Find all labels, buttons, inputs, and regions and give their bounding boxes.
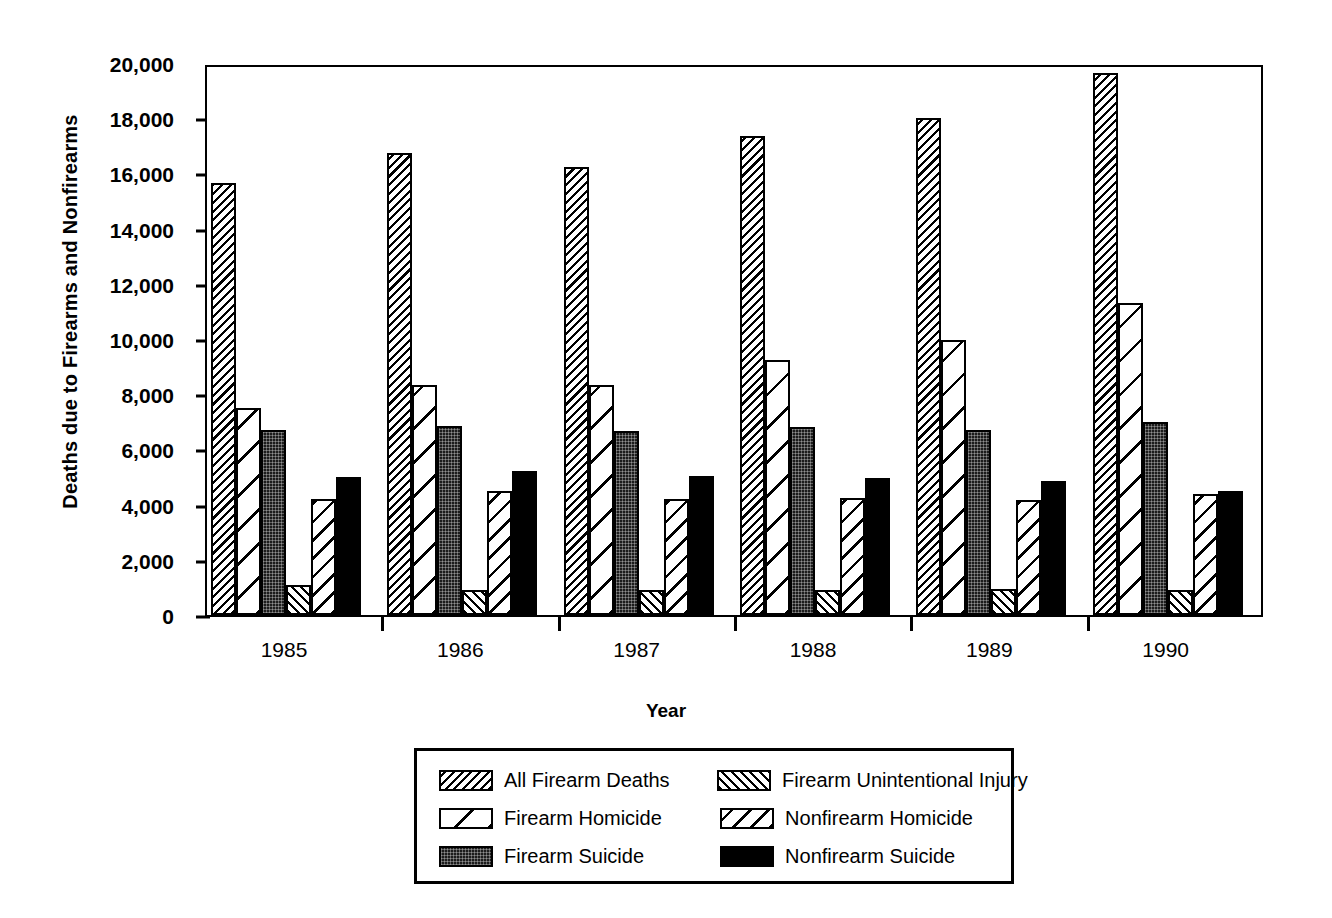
bar <box>487 491 512 615</box>
legend-label: Firearm Unintentional Injury <box>782 769 1028 792</box>
y-axis-tick-label: 6,000 <box>121 439 174 463</box>
bar <box>664 499 689 615</box>
y-axis-tick-label: 12,000 <box>110 274 174 298</box>
legend-label: Firearm Homicide <box>504 807 662 830</box>
bar <box>1193 494 1218 615</box>
plot-area <box>205 65 1263 617</box>
bar <box>1218 491 1243 615</box>
x-axis-tick-mark <box>558 617 561 631</box>
y-axis-tick-label: 14,000 <box>110 219 174 243</box>
bar-group <box>383 67 559 615</box>
legend-label: All Firearm Deaths <box>504 769 670 792</box>
bar-group <box>560 67 736 615</box>
bar <box>614 431 639 615</box>
y-axis-tick-label: 20,000 <box>110 53 174 77</box>
legend-item-firearm-homicide: Firearm Homicide <box>417 807 714 830</box>
bar <box>1093 73 1118 615</box>
x-axis-title: Year <box>0 700 1332 722</box>
bar <box>286 585 311 615</box>
bar <box>966 430 991 615</box>
legend-swatch-firearm-homicide <box>439 808 493 829</box>
legend-row: All Firearm Deaths Firearm Unintentional… <box>417 761 1011 799</box>
x-axis-tick-label: 1989 <box>966 638 1013 662</box>
y-axis-tick-label: 0 <box>162 605 174 629</box>
legend-swatch-nonfirearm-suicide <box>720 846 774 867</box>
legend-item-firearm-unintentional-injury: Firearm Unintentional Injury <box>711 769 1011 792</box>
bar <box>1041 481 1066 615</box>
y-axis-tick-label: 16,000 <box>110 163 174 187</box>
x-axis-ticks <box>205 617 1263 633</box>
bar <box>740 136 765 615</box>
y-axis-tick-label: 2,000 <box>121 550 174 574</box>
bar <box>336 477 361 615</box>
bar-group <box>207 67 383 615</box>
legend-label: Nonfirearm Homicide <box>785 807 973 830</box>
bar-group <box>912 67 1088 615</box>
legend-item-all-firearm-deaths: All Firearm Deaths <box>417 769 711 792</box>
x-axis-tick-label: 1988 <box>790 638 837 662</box>
x-axis-tick-label: 1986 <box>437 638 484 662</box>
legend-item-nonfirearm-suicide: Nonfirearm Suicide <box>714 845 1011 868</box>
bar <box>512 471 537 615</box>
bar <box>236 408 261 615</box>
x-axis-tick-label: 1985 <box>261 638 308 662</box>
x-axis-tick-label: 1987 <box>613 638 660 662</box>
x-axis-tick-mark <box>381 617 384 631</box>
bar <box>941 340 966 615</box>
x-axis-tick-label: 1990 <box>1142 638 1189 662</box>
legend-swatch-firearm-suicide <box>439 846 493 867</box>
bar <box>689 476 714 615</box>
bar <box>589 385 614 615</box>
x-axis-tick-mark <box>910 617 913 631</box>
bar <box>815 590 840 615</box>
bar <box>211 183 236 615</box>
y-axis-tick-labels: 20,00018,00016,00014,00012,00010,0008,00… <box>0 0 196 640</box>
legend-row: Firearm Homicide Nonfirearm Homicide <box>417 799 1011 837</box>
bar <box>991 589 1016 615</box>
bar <box>865 478 890 615</box>
y-axis-tick-label: 10,000 <box>110 329 174 353</box>
bar <box>1168 590 1193 615</box>
bar <box>261 430 286 615</box>
y-axis-tick-label: 18,000 <box>110 108 174 132</box>
x-axis-tick-mark <box>1087 617 1090 631</box>
legend-item-firearm-suicide: Firearm Suicide <box>417 845 714 868</box>
x-axis-tick-labels: 198519861987198819891990 <box>205 638 1263 672</box>
bar <box>790 427 815 615</box>
chart-figure: Deaths due to Firearms and Nonfirearms 2… <box>0 0 1332 918</box>
bar <box>916 118 941 615</box>
y-axis-tick-label: 4,000 <box>121 495 174 519</box>
bar-group <box>1089 67 1265 615</box>
legend-item-nonfirearm-homicide: Nonfirearm Homicide <box>714 807 1011 830</box>
bar-group <box>736 67 912 615</box>
bar <box>639 590 664 615</box>
chart-legend: All Firearm Deaths Firearm Unintentional… <box>414 748 1014 884</box>
bar <box>1016 500 1041 615</box>
legend-swatch-all-firearm-deaths <box>439 770 493 791</box>
bar <box>840 498 865 615</box>
legend-swatch-nonfirearm-homicide <box>720 808 774 829</box>
legend-swatch-firearm-unintentional-injury <box>717 770 771 791</box>
bar <box>387 153 412 615</box>
bar <box>564 167 589 616</box>
bars-layer <box>207 67 1261 615</box>
legend-label: Nonfirearm Suicide <box>785 845 955 868</box>
legend-label: Firearm Suicide <box>504 845 644 868</box>
bar <box>765 360 790 615</box>
legend-row: Firearm Suicide Nonfirearm Suicide <box>417 837 1011 875</box>
bar <box>1118 303 1143 615</box>
bar <box>412 385 437 615</box>
x-axis-tick-mark <box>734 617 737 631</box>
bar <box>311 499 336 615</box>
y-axis-tick-label: 8,000 <box>121 384 174 408</box>
bar <box>437 426 462 615</box>
bar <box>1143 422 1168 615</box>
bar <box>462 590 487 615</box>
